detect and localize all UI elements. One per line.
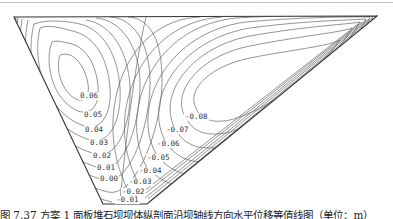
contour-label: -0.08: [184, 113, 209, 121]
contour-label: 0.02: [92, 152, 112, 160]
contour-label: -0.01: [115, 196, 140, 204]
contour-label: -0.04: [138, 167, 163, 175]
figure-caption: 图 7.37 方案 1 面板堆石坝坝体纵剖面沿坝轴线方向水平位移等值线图（单位：…: [0, 208, 393, 219]
contour-label: 0.03: [89, 139, 109, 147]
contour-label: -0.07: [165, 126, 190, 134]
contour-plot-svg: [0, 0, 393, 210]
contour-label: 0.01: [96, 164, 116, 172]
contour-label: 0.00: [99, 175, 119, 183]
contour-label: -0.06: [156, 140, 181, 148]
contour-figure: 0.06 0.05 0.04 0.03 0.02 0.01 0.00 -0.08…: [0, 0, 393, 210]
dam-outline: [14, 16, 377, 204]
contour-lines: [15, 16, 373, 203]
contour-label: -0.03: [128, 178, 153, 186]
contour-label: 0.06: [79, 92, 99, 100]
contour-label: 0.05: [83, 111, 103, 119]
contour-label: -0.05: [146, 154, 171, 162]
contour-label: 0.04: [84, 126, 104, 134]
